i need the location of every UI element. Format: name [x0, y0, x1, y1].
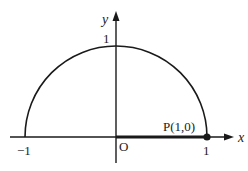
origin-label: O: [119, 139, 128, 154]
y-tick-1: 1: [103, 31, 110, 46]
x-axis-arrow-icon: [224, 134, 234, 141]
x-tick-neg1: −1: [17, 143, 31, 158]
y-axis-arrow-icon: [113, 11, 120, 21]
x-tick-1: 1: [203, 143, 210, 158]
y-axis-label: y: [100, 12, 109, 27]
point-p-label: P(1,0): [163, 119, 195, 134]
semicircle-diagram: y x 1 O −1 1 P(1,0): [0, 0, 248, 171]
point-p: [203, 133, 210, 140]
x-axis-label: x: [237, 130, 245, 145]
